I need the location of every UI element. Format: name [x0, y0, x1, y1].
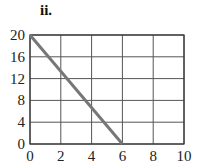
x-tick-label: 6: [119, 148, 127, 164]
x-tick-label: 10: [177, 148, 192, 164]
y-tick-label: 4: [18, 114, 26, 130]
x-tick-label: 8: [149, 148, 157, 164]
x-tick-label: 4: [88, 148, 96, 164]
y-tick-label: 8: [18, 92, 26, 108]
y-tick-label: 0: [18, 136, 26, 152]
data-line: [30, 35, 122, 144]
x-tick-label: 0: [26, 148, 34, 164]
y-tick-label: 12: [10, 71, 25, 87]
y-tick-label: 20: [10, 27, 25, 43]
line-chart: 0246810048121620: [0, 0, 200, 168]
y-tick-label: 16: [10, 49, 26, 65]
x-tick-label: 2: [57, 148, 65, 164]
